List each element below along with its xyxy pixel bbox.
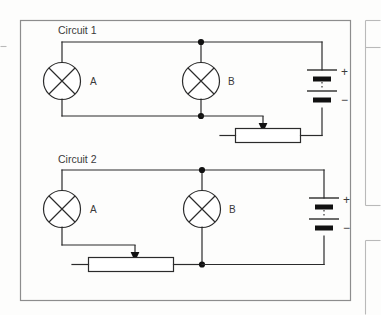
c2-battery-minus-label: −	[343, 221, 350, 235]
c2-battery: + −	[309, 193, 350, 235]
c1-battery-plus-label: +	[341, 65, 348, 79]
circuit-1-title: Circuit 1	[58, 24, 97, 36]
circuit-diagram-figure: Circuit 1 A B	[0, 0, 381, 315]
c1-lamp-a-label: A	[90, 76, 97, 87]
c1-lamp-b-label: B	[228, 76, 235, 87]
c2-lamp-a-label: A	[90, 204, 97, 215]
circuit-2-group: Circuit 2 A B	[44, 153, 351, 272]
circuit-2-title: Circuit 2	[58, 153, 97, 165]
c2-rheostat-body	[89, 258, 174, 272]
c1-battery-minus-label: −	[341, 93, 348, 107]
c2-battery-plus-label: +	[343, 193, 350, 207]
c1-battery: + −	[307, 65, 348, 107]
c1-junction-dot-top	[198, 39, 204, 45]
c2-junction-dot-top	[199, 167, 205, 173]
figure-page: Circuit 1 A B	[0, 0, 381, 315]
circuit-1-group: Circuit 1 A B	[44, 24, 349, 143]
c1-rheostat-body	[236, 129, 301, 143]
c2-lamp-b-label: B	[229, 204, 236, 215]
